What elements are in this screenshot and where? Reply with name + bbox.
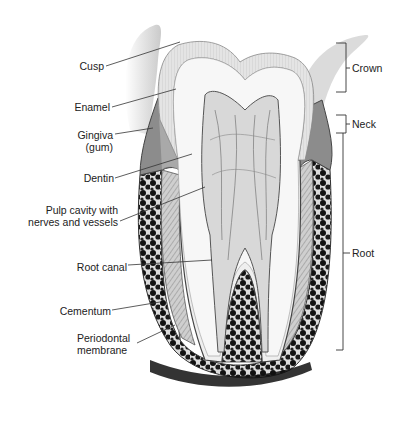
label-neck: Neck bbox=[352, 118, 376, 130]
label-cementum: Cementum bbox=[60, 305, 111, 317]
label-cusp: Cusp bbox=[79, 60, 104, 72]
label-dentin: Dentin bbox=[84, 172, 114, 184]
label-pulp-cavity: Pulp cavity withnerves and vessels bbox=[28, 204, 118, 228]
region-brackets bbox=[336, 43, 350, 350]
label-gingiva: Gingiva(gum) bbox=[77, 129, 113, 153]
label-root: Root bbox=[352, 247, 374, 259]
label-enamel: Enamel bbox=[74, 101, 110, 113]
label-crown: Crown bbox=[352, 62, 382, 74]
label-periodontal-membrane: Periodontalmembrane bbox=[77, 332, 130, 356]
label-root-canal: Root canal bbox=[77, 261, 127, 273]
